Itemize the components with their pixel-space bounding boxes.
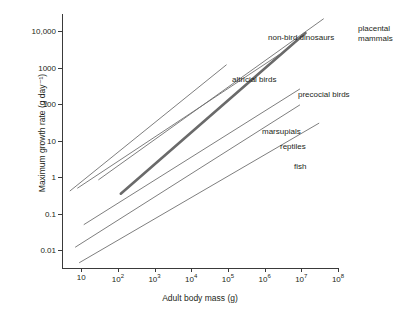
x-tick-label: 107 <box>295 273 307 284</box>
x-tick-label: 105 <box>222 273 234 284</box>
x-tick-label: 108 <box>332 273 344 284</box>
series-annotation-label: altricial birds <box>232 75 276 85</box>
series-annotation-label: placentalmammals <box>358 24 393 43</box>
x-tick-mark <box>338 268 339 272</box>
x-tick-label: 106 <box>258 273 270 284</box>
series-annotation-label: fish <box>294 162 306 172</box>
x-tick-label: 10 <box>77 273 86 282</box>
y-tick-label: 10 <box>47 136 56 145</box>
plot-area: 0.010.1110100100010,000 1010210310410510… <box>62 14 338 269</box>
series-annotation-label: non-bird dinosaurs <box>268 33 334 43</box>
y-tick-label: 1 <box>52 173 56 182</box>
y-tick-label: 0.01 <box>40 245 56 254</box>
series-line <box>84 89 300 224</box>
x-tick-label: 102 <box>112 273 124 284</box>
x-tick-label: 103 <box>148 273 160 284</box>
series-annotation-label: reptiles <box>280 142 306 152</box>
series-line <box>121 33 306 194</box>
x-tick-label: 104 <box>185 273 197 284</box>
series-line <box>70 65 226 191</box>
series-annotation-label: precocial birds <box>298 90 350 100</box>
y-axis-title: Maximum growth rate (g day⁻¹) <box>37 33 47 233</box>
series-annotation-label: marsupials <box>262 127 301 137</box>
x-axis-title: Adult body mass (g) <box>62 293 338 303</box>
